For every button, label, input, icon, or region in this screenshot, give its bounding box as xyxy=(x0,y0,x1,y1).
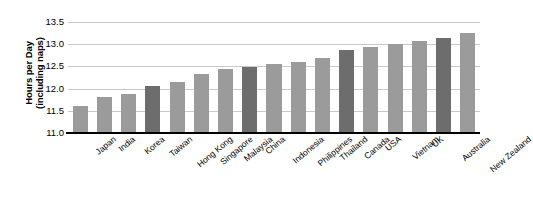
bar-vietnam xyxy=(388,44,403,133)
y-axis-tick-label: 13.5 xyxy=(34,17,64,27)
y-axis-tick-label: 13.0 xyxy=(34,39,64,49)
bar-new-zealand xyxy=(460,33,475,133)
bar-thailand xyxy=(315,58,330,133)
x-axis-tick-label: Korea xyxy=(142,134,166,156)
y-axis-tick-label: 11.0 xyxy=(34,128,64,138)
x-axis-tick-labels: JapanIndiaKoreaTaiwanHong KongSingaporeM… xyxy=(68,134,480,208)
bar-singapore xyxy=(194,74,209,133)
plot-area xyxy=(68,22,480,133)
gridline xyxy=(68,22,480,23)
x-axis-tick-label: Taiwan xyxy=(167,134,194,159)
bar-australia xyxy=(436,38,451,133)
bar-taiwan xyxy=(145,86,160,133)
bar-philippines xyxy=(291,62,306,133)
bar-malaysia xyxy=(218,69,233,133)
y-axis-tick-label: 12.5 xyxy=(34,61,64,71)
bar-uk xyxy=(412,41,427,133)
y-axis-tick-label: 11.5 xyxy=(34,106,64,116)
bar-japan xyxy=(73,106,88,133)
x-axis-tick-label: Australia xyxy=(459,134,491,163)
bar-india xyxy=(97,97,112,133)
x-axis-tick-label: India xyxy=(117,134,138,154)
bar-indonesia xyxy=(266,64,281,133)
bar-usa xyxy=(363,47,378,133)
bar-china xyxy=(242,67,257,133)
y-axis-tick-labels: 11.011.512.012.513.013.5 xyxy=(32,22,64,133)
bar-hong-kong xyxy=(170,82,185,133)
y-axis-tick-label: 12.0 xyxy=(34,84,64,94)
bar-korea xyxy=(121,94,136,133)
x-axis-tick-label: Japan xyxy=(94,134,118,157)
bar-canada xyxy=(339,50,354,133)
x-axis-tick-label: New Zealand xyxy=(488,134,533,174)
